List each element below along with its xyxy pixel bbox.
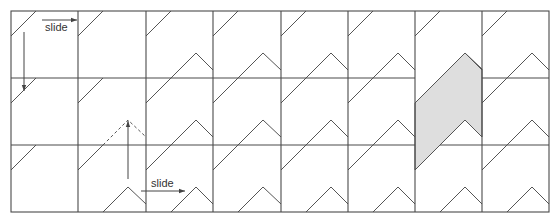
chevron-line — [306, 187, 348, 212]
tessellation-grid — [0, 0, 556, 220]
short-diagonal — [11, 145, 36, 170]
slide-label-bottom: slide — [151, 178, 174, 189]
chevron-line — [238, 53, 281, 78]
short-diagonal — [348, 11, 373, 36]
short-diagonal — [213, 11, 238, 36]
short-diagonal — [348, 78, 373, 103]
short-diagonal — [78, 78, 103, 103]
chevron-line — [373, 187, 415, 212]
short-diagonal — [482, 145, 507, 170]
short-diagonal — [213, 145, 238, 170]
arrowhead-icon — [179, 189, 185, 193]
chevron-line — [373, 120, 415, 145]
arrowhead-icon — [126, 121, 130, 127]
short-diagonal — [78, 11, 103, 36]
short-diagonal — [281, 78, 306, 103]
chevron-line — [306, 53, 348, 78]
chevron-line — [306, 120, 348, 145]
short-diagonal — [281, 145, 306, 170]
short-diagonal — [482, 78, 507, 103]
chevron-line — [238, 187, 281, 212]
dashed-chevron-line — [103, 120, 146, 145]
shaded-tile — [415, 53, 482, 170]
slide-arrows — [22, 18, 185, 193]
chevron-line — [171, 120, 213, 145]
chevron-line — [507, 53, 549, 78]
short-diagonal — [482, 11, 507, 36]
shaded-chevron-tile — [415, 53, 482, 170]
short-diagonal — [146, 78, 171, 103]
tessellation-diagram: slide slide — [0, 0, 556, 220]
chevron-line — [507, 120, 549, 145]
short-diagonal — [146, 11, 171, 36]
chevron-line — [103, 187, 146, 212]
short-diagonal — [78, 145, 103, 170]
short-diagonal — [415, 11, 440, 36]
short-diagonal — [281, 11, 306, 36]
chevron-line — [507, 187, 549, 212]
chevron-line — [238, 120, 281, 145]
chevron-line — [440, 187, 482, 212]
chevron-line — [171, 53, 213, 78]
short-diagonal — [146, 145, 171, 170]
arrowhead-icon — [71, 18, 77, 22]
short-diagonal — [213, 78, 238, 103]
chevron-line — [373, 53, 415, 78]
slide-label-top: slide — [45, 22, 68, 33]
short-diagonal — [348, 145, 373, 170]
